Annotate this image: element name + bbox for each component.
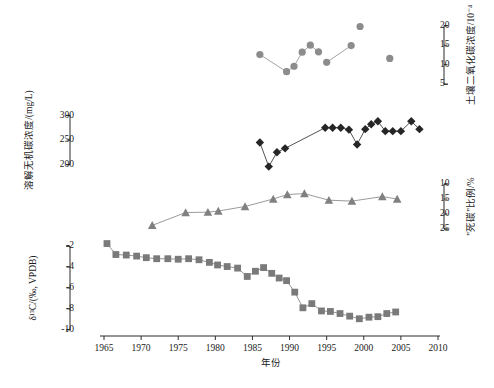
data-point-delta13c [283,277,290,284]
data-point-soil-co2 [348,42,355,49]
data-point-soil-co2 [299,49,306,56]
svg-text:1990: 1990 [280,343,299,353]
axes-layer [66,26,448,340]
soil-co2-axis-title: 土壤二氧化碳浓度/10⁻⁴ [465,4,476,105]
data-point-delta13c [104,240,111,247]
data-point-delta13c [206,259,213,266]
data-point-delta13c [164,255,171,262]
figure-svg: 1965197019751980198519901995200020052010… [0,0,494,388]
data-point-delta13c [185,255,192,262]
data-point-dead-carbon [241,202,250,210]
series-layer [104,23,424,322]
data-point-delta13c [196,256,203,263]
series-dead-carbon [148,189,402,229]
data-point-dic [389,127,397,135]
dead-carbon-tick: 15 [440,193,450,203]
data-point-dead-carbon [378,192,387,200]
data-point-dic [321,123,329,131]
data-point-soil-co2 [290,63,297,70]
x-axis-title: 年份 [261,357,281,368]
data-point-dead-carbon [300,189,309,197]
data-point-delta13c [133,253,140,260]
data-point-delta13c [308,300,315,307]
data-point-delta13c [337,310,344,317]
data-point-delta13c [291,289,298,296]
delta13c-tick: -8 [66,303,74,313]
labels-layer: 1965197019751980198519901995200020052010… [23,4,476,368]
data-point-delta13c [366,314,373,321]
soil-co2-tick: 15 [440,39,450,49]
delta13c-tick: -10 [61,324,74,334]
data-point-dic [353,140,361,148]
data-point-delta13c [276,275,283,282]
multi-panel-chart: 1965197019751980198519901995200020052010… [0,0,494,388]
data-point-soil-co2 [323,59,330,66]
series-line-delta13c [107,244,396,319]
series-dic [256,117,424,171]
data-point-soil-co2 [356,23,363,30]
data-point-delta13c [234,265,241,272]
data-point-soil-co2 [283,68,290,75]
data-point-soil-co2 [307,42,314,49]
svg-text:2005: 2005 [391,343,410,353]
data-point-delta13c [252,268,259,275]
data-point-delta13c [268,270,275,277]
data-point-delta13c [327,308,334,315]
data-point-dic [328,123,336,131]
data-point-delta13c [374,313,381,320]
data-point-delta13c [244,273,251,280]
svg-text:1970: 1970 [132,343,151,353]
delta13c-tick: -4 [66,261,74,271]
data-point-delta13c [112,251,119,258]
data-point-delta13c [123,252,130,259]
data-point-soil-co2 [315,48,322,55]
data-point-delta13c [260,264,267,271]
soil-co2-tick: 5 [440,78,445,88]
data-point-soil-co2 [386,55,393,62]
delta13c-tick: -6 [66,282,74,292]
svg-text:1980: 1980 [206,343,225,353]
data-point-dead-carbon [148,221,157,229]
data-point-delta13c [346,313,353,320]
svg-text:2010: 2010 [429,343,448,353]
dead-carbon-tick: 20 [440,208,450,218]
data-point-delta13c [214,262,221,269]
dic-axis-title: 溶解无机碳浓度/(mg/L) [23,90,35,190]
dead-carbon-axis-title: "死碳"比例/% [465,177,476,235]
dic-tick: 250 [60,134,75,144]
data-point-delta13c [300,304,307,311]
data-point-dic [345,125,353,133]
data-point-delta13c [143,254,150,261]
dead-carbon-tick: 25 [440,223,450,233]
data-point-delta13c [224,263,231,270]
series-line-soil-co2 [260,45,351,72]
soil-co2-tick: 20 [440,20,450,30]
delta13c-tick: -2 [66,240,74,250]
data-point-dead-carbon [269,195,278,203]
data-point-dic [256,138,264,146]
dic-tick: 300 [60,110,75,120]
svg-text:2000: 2000 [354,343,373,353]
data-point-soil-co2 [256,51,263,58]
data-point-delta13c [175,256,182,263]
data-point-dic [337,123,345,131]
data-point-dic [265,162,273,170]
data-point-delta13c [383,310,390,317]
data-point-delta13c [318,308,325,315]
data-point-delta13c [392,309,399,316]
delta13c-axis-title: δ¹³C/(‰, VPDB) [28,256,39,321]
dic-tick: 200 [60,159,75,169]
data-point-delta13c [153,255,160,262]
series-delta13c [104,240,400,322]
svg-text:1985: 1985 [243,343,262,353]
data-point-dic [273,148,281,156]
data-point-dead-carbon [325,196,334,204]
soil-co2-tick: 10 [440,59,450,69]
svg-text:1965: 1965 [95,343,114,353]
data-point-dic [381,127,389,135]
dead-carbon-tick: 10 [440,178,450,188]
svg-text:1975: 1975 [169,343,188,353]
data-point-delta13c [356,315,363,322]
data-point-dic [281,144,289,152]
series-soil-co2 [256,23,393,75]
